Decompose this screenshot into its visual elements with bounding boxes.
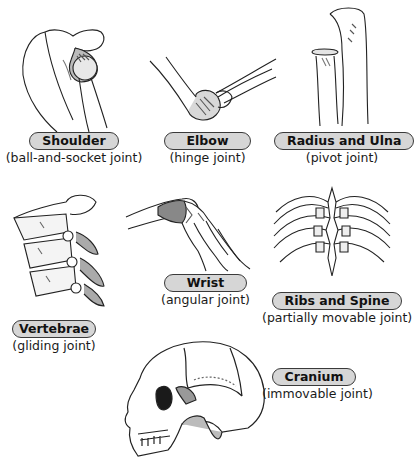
joint-caption-cranium: Cranium (immovable joint) [262, 366, 366, 402]
joint-caption-shoulder: Shoulder (ball-and-socket joint) [4, 130, 144, 166]
joint-label-radius-ulna: Radius and Ulna [274, 132, 414, 150]
wrist-illustration-icon [124, 193, 254, 273]
joint-type-radius-ulna: (pivot joint) [274, 150, 410, 166]
joint-caption-ribs-spine: Ribs and Spine (partially movable joint) [262, 290, 412, 326]
ribs-spine-illustration-icon [272, 178, 392, 278]
joint-type-cranium: (immovable joint) [262, 386, 366, 402]
elbow-joint-illustration-icon [148, 55, 278, 127]
skull-illustration-icon [118, 338, 268, 460]
joint-label-vertebrae: Vertebrae [12, 320, 96, 338]
joint-caption-wrist: Wrist (angular joint) [148, 272, 263, 308]
joint-caption-elbow: Elbow (hinge joint) [150, 130, 265, 166]
joint-type-wrist: (angular joint) [148, 292, 263, 308]
shoulder-joint-illustration-icon [15, 20, 115, 135]
joint-type-vertebrae: (gliding joint) [4, 338, 104, 354]
joint-type-elbow: (hinge joint) [150, 150, 265, 166]
joint-label-ribs-spine: Ribs and Spine [272, 292, 403, 310]
joint-caption-vertebrae: Vertebrae (gliding joint) [4, 318, 104, 354]
joint-label-wrist: Wrist [164, 274, 247, 292]
joint-label-elbow: Elbow [164, 132, 252, 150]
radius-ulna-illustration-icon [308, 4, 378, 128]
joint-type-ribs-spine: (partially movable joint) [262, 310, 412, 326]
joint-type-shoulder: (ball-and-socket joint) [4, 150, 144, 166]
joint-label-cranium: Cranium [272, 368, 357, 386]
joint-caption-radius-ulna: Radius and Ulna (pivot joint) [274, 130, 410, 166]
joint-label-shoulder: Shoulder [29, 132, 118, 150]
vertebrae-illustration-icon [10, 188, 115, 308]
